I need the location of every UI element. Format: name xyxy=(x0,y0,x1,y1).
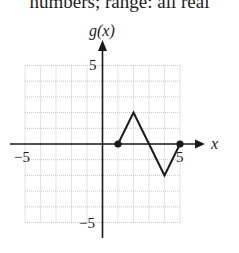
y-tick-pos5: 5 xyxy=(89,57,97,73)
y-tick-neg5: −5 xyxy=(79,215,95,231)
graph-g-of-x: x g(x) −5 5 5 −5 xyxy=(0,0,239,253)
axes xyxy=(10,40,205,238)
x-axis-label: x xyxy=(210,135,218,152)
closed-endpoint-dot xyxy=(176,140,183,147)
closed-endpoint-dot xyxy=(114,140,121,147)
y-axis-arrow-icon xyxy=(98,40,107,51)
y-axis-label: g(x) xyxy=(89,22,115,40)
x-tick-pos5: 5 xyxy=(176,149,184,165)
x-axis-arrow-icon xyxy=(195,140,205,149)
x-tick-neg5: −5 xyxy=(14,149,30,165)
